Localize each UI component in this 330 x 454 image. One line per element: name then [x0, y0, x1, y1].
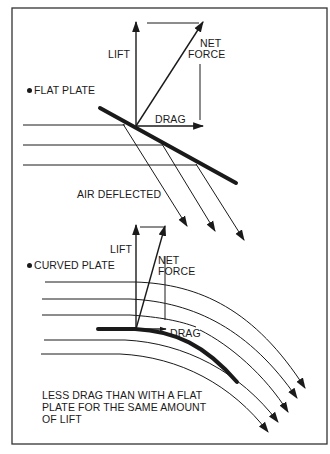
curved-drag-label: DRAG — [170, 328, 201, 339]
curved-plate — [98, 329, 237, 382]
flat-net-force-label-line2: FORCE — [188, 49, 225, 60]
curved-streamline-3 — [42, 315, 196, 327]
air-deflected-label: AIR DEFLECTED — [77, 189, 161, 200]
caption-line-1: LESS DRAG THAN WITH A FLAT — [42, 390, 202, 401]
caption-line-2: PLATE FOR THE SAME AMOUNT — [42, 402, 206, 413]
curved-plate-title: CURVED PLATE — [27, 260, 115, 271]
flat-drag-label: DRAG — [155, 114, 186, 125]
curved-net-force-label-line2: FORCE — [158, 266, 195, 277]
curved-streamline-3b — [200, 330, 288, 412]
flat-plate-title: FLAT PLATE — [27, 85, 95, 96]
curved-lift-label: LIFT — [110, 244, 132, 255]
caption-line-3: OF LIFT — [42, 414, 82, 425]
flat-lift-label: LIFT — [108, 49, 130, 60]
net-force-arrow — [136, 226, 165, 329]
curved-streamline-2 — [42, 299, 297, 398]
net-force-arrow — [136, 22, 203, 126]
lift-drag-diagram — [0, 0, 330, 454]
